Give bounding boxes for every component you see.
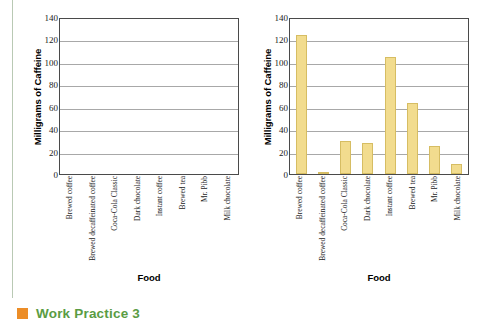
x-label-slot: Milk chocolate <box>217 176 240 268</box>
chart-right: Milligrams of Caffeine 02040608010012014… <box>248 0 484 300</box>
x-label-slot: Brewed tea <box>172 176 195 268</box>
bar-slot <box>171 19 193 174</box>
bar-slot <box>105 19 127 174</box>
bar-slot <box>312 19 334 174</box>
x-tick-label: Brewed coffee <box>66 176 74 264</box>
chart-right-y-tick-140: 140 <box>264 13 288 23</box>
x-tick-label: Dark chocolate <box>364 176 372 264</box>
chart-right-y-tick-60: 60 <box>264 103 288 113</box>
bar <box>296 35 307 174</box>
x-label-slot: Instant coffee <box>379 176 402 268</box>
square-bullet-icon <box>17 308 28 319</box>
bar <box>429 146 440 174</box>
chart-left-y-tick-140: 140 <box>34 13 58 23</box>
chart-right-y-tick-120: 120 <box>264 35 288 45</box>
chart-left-y-tick-100: 100 <box>34 58 58 68</box>
x-label-slot: Brewed coffee <box>289 176 312 268</box>
chart-right-y-tick-20: 20 <box>264 148 288 158</box>
x-tick-label: Brewed decaffeinated coffee <box>89 176 97 264</box>
bar <box>318 172 329 174</box>
chart-right-plot-area <box>289 18 469 175</box>
bar-slot <box>149 19 171 174</box>
x-tick-label: Coca-Cola Classic <box>111 176 119 264</box>
bar-slot <box>357 19 379 174</box>
chart-left-y-tick-80: 80 <box>34 80 58 90</box>
bar-slot <box>127 19 149 174</box>
bar-slot <box>290 19 312 174</box>
x-label-slot: Instant coffee <box>149 176 172 268</box>
bar-slot <box>379 19 401 174</box>
x-tick-label: Brewed decaffeinated coffee <box>319 176 327 264</box>
x-tick-label: Brewed coffee <box>296 176 304 264</box>
bar <box>407 103 418 174</box>
x-tick-label: Dark chocolate <box>134 176 142 264</box>
chart-right-y-tick-40: 40 <box>264 125 288 135</box>
work-practice-label: Work Practice 3 <box>36 306 140 321</box>
chart-left-y-ticks: 020406080100120140 <box>34 12 58 182</box>
x-label-slot: Coca-Cola Classic <box>334 176 357 268</box>
chart-right-x-tick-labels: Brewed coffeeBrewed decaffeinated coffee… <box>289 176 469 268</box>
bar <box>340 141 351 174</box>
work-practice-footer: Work Practice 3 <box>17 306 140 321</box>
x-label-slot: Dark chocolate <box>127 176 150 268</box>
chart-right-x-axis-title: Food <box>289 272 469 283</box>
bar-slot <box>194 19 216 174</box>
x-tick-label: Instant coffee <box>386 176 394 264</box>
bar-slot <box>424 19 446 174</box>
x-label-slot: Coca-Cola Classic <box>104 176 127 268</box>
chart-left-x-axis-title: Food <box>59 272 239 283</box>
chart-right-y-tick-100: 100 <box>264 58 288 68</box>
chart-right-y-ticks: 020406080100120140 <box>264 12 288 182</box>
chart-left-y-tick-60: 60 <box>34 103 58 113</box>
bar-slot <box>401 19 423 174</box>
chart-left-plot-area <box>59 18 239 175</box>
x-tick-label: Coca-Cola Classic <box>341 176 349 264</box>
x-label-slot: Brewed decaffeinated coffee <box>312 176 335 268</box>
x-tick-label: Brewed tea <box>409 176 417 264</box>
x-tick-label: Mr. Pibb <box>201 176 209 264</box>
bar-slot <box>60 19 82 174</box>
bar-slot <box>446 19 468 174</box>
x-tick-label: Instant coffee <box>156 176 164 264</box>
chart-left: Milligrams of Caffeine 02040608010012014… <box>18 0 250 300</box>
page-margin-rule <box>12 0 13 298</box>
chart-right-y-tick-80: 80 <box>264 80 288 90</box>
x-label-slot: Milk chocolate <box>447 176 470 268</box>
chart-left-x-tick-labels: Brewed coffeeBrewed decaffeinated coffee… <box>59 176 239 268</box>
bar-slot <box>216 19 238 174</box>
chart-left-y-tick-20: 20 <box>34 148 58 158</box>
chart-right-bars <box>290 19 468 174</box>
bar <box>451 164 462 174</box>
chart-left-y-tick-120: 120 <box>34 35 58 45</box>
x-tick-label: Brewed tea <box>179 176 187 264</box>
x-label-slot: Mr. Pibb <box>194 176 217 268</box>
x-label-slot: Brewed tea <box>402 176 425 268</box>
chart-right-y-tick-0: 0 <box>264 170 288 180</box>
chart-left-y-tick-0: 0 <box>34 170 58 180</box>
x-label-slot: Brewed coffee <box>59 176 82 268</box>
bar-slot <box>335 19 357 174</box>
bar-slot <box>82 19 104 174</box>
chart-left-y-tick-40: 40 <box>34 125 58 135</box>
x-label-slot: Dark chocolate <box>357 176 380 268</box>
x-label-slot: Brewed decaffeinated coffee <box>82 176 105 268</box>
x-tick-label: Milk chocolate <box>224 176 232 264</box>
x-label-slot: Mr. Pibb <box>424 176 447 268</box>
chart-left-bars <box>60 19 238 174</box>
x-tick-label: Mr. Pibb <box>431 176 439 264</box>
bar <box>362 143 373 174</box>
x-tick-label: Milk chocolate <box>454 176 462 264</box>
bar <box>385 57 396 174</box>
